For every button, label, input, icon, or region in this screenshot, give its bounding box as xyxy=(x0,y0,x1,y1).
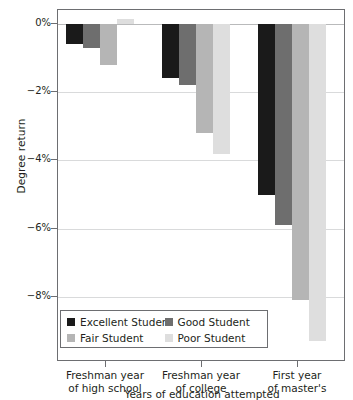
bar xyxy=(179,24,196,86)
bar xyxy=(213,24,230,154)
x-axis-title: Years of education attempted xyxy=(57,388,347,400)
legend-swatch-icon xyxy=(67,318,75,326)
legend-item-excellent-student: Excellent Student xyxy=(67,317,165,328)
bar xyxy=(162,24,179,79)
bar-chart-figure: Degree return 0%−2%−4%−6%−8% Freshman ye… xyxy=(0,0,353,400)
legend-swatch-icon xyxy=(67,334,75,342)
y-axis-tick-label: −8% xyxy=(11,291,51,301)
legend-item-good-student: Good Student xyxy=(165,317,263,328)
legend-row: Fair Student Poor Student xyxy=(67,330,262,346)
legend-label: Good Student xyxy=(178,317,250,328)
bar xyxy=(66,24,83,45)
y-axis-tick-label: −4% xyxy=(11,154,51,164)
x-axis-tick-label-line: Freshman year xyxy=(50,369,160,382)
legend-label: Excellent Student xyxy=(80,317,173,328)
legend-item-fair-student: Fair Student xyxy=(67,333,165,344)
y-axis-tick-label: 0% xyxy=(11,18,51,28)
x-axis-tick-mark xyxy=(105,361,106,367)
bar xyxy=(100,24,117,65)
bar xyxy=(117,19,134,24)
legend-row: Excellent Student Good Student xyxy=(67,314,262,330)
bar xyxy=(83,24,100,48)
legend-label: Fair Student xyxy=(80,333,143,344)
bar xyxy=(292,24,309,301)
x-axis-tick-mark xyxy=(201,361,202,367)
bar xyxy=(258,24,275,195)
bar xyxy=(196,24,213,133)
bar xyxy=(309,24,326,342)
plot-area xyxy=(57,9,345,361)
y-axis-tick-label: −6% xyxy=(11,223,51,233)
legend-label: Poor Student xyxy=(178,333,246,344)
bar xyxy=(275,24,292,226)
legend-item-poor-student: Poor Student xyxy=(165,333,263,344)
x-axis-tick-mark xyxy=(297,361,298,367)
x-axis-tick-label-line: Freshman year xyxy=(146,369,256,382)
legend-swatch-icon xyxy=(165,334,173,342)
y-axis-tick-label: −2% xyxy=(11,86,51,96)
legend-swatch-icon xyxy=(165,318,173,326)
legend: Excellent Student Good Student Fair Stud… xyxy=(60,310,268,348)
x-axis-tick-label-line: First year xyxy=(242,369,352,382)
